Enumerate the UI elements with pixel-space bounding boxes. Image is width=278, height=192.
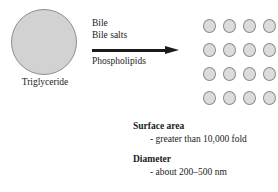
diameter-heading: Diameter bbox=[133, 153, 278, 166]
micelle-cell bbox=[219, 62, 239, 86]
micelle-circle bbox=[263, 19, 276, 33]
micelle-cell bbox=[219, 86, 239, 110]
micelle-cell bbox=[199, 86, 219, 110]
micelle-cell bbox=[259, 86, 278, 110]
micelle-circle bbox=[243, 91, 256, 105]
micelle-cell bbox=[239, 62, 259, 86]
micelle-cell bbox=[239, 14, 259, 38]
caption-block: Surface area - greater than 10,000 fold … bbox=[133, 120, 278, 179]
surface-area-detail: - greater than 10,000 fold bbox=[133, 133, 278, 146]
micelle-circle bbox=[263, 67, 276, 81]
micelle-circle bbox=[223, 91, 236, 105]
micelle-circle bbox=[263, 91, 276, 105]
reagent-bile-label: Bile bbox=[92, 17, 184, 29]
micelle-circle bbox=[223, 19, 236, 33]
micelle-circle bbox=[223, 43, 236, 57]
micelle-circle bbox=[243, 67, 256, 81]
micelle-cell bbox=[219, 14, 239, 38]
reagent-bile-salts-label: Bile salts bbox=[92, 29, 184, 41]
micelle-cell bbox=[199, 62, 219, 86]
diameter-detail: - about 200–500 nm bbox=[133, 166, 278, 179]
reagent-phospholipids-label: Phospholipids bbox=[92, 55, 146, 67]
micelle-circle bbox=[203, 19, 216, 33]
micelle-circle bbox=[203, 43, 216, 57]
micelle-cell bbox=[259, 38, 278, 62]
micelle-cell bbox=[239, 38, 259, 62]
micelle-cell bbox=[239, 86, 259, 110]
reagent-labels-above: Bile Bile salts bbox=[92, 17, 184, 41]
micelle-cell bbox=[199, 14, 219, 38]
micelle-circle bbox=[243, 43, 256, 57]
triglyceride-label: Triglyceride bbox=[0, 77, 90, 88]
micelle-circle bbox=[243, 19, 256, 33]
micelle-circle bbox=[203, 91, 216, 105]
micelle-cell bbox=[259, 62, 278, 86]
surface-area-heading: Surface area bbox=[133, 120, 278, 133]
triglyceride-droplet bbox=[11, 9, 77, 75]
micelle-circle bbox=[203, 67, 216, 81]
arrow-shaft bbox=[92, 49, 168, 52]
micelle-cell bbox=[259, 14, 278, 38]
arrow-head bbox=[165, 46, 179, 54]
micelle-circle bbox=[263, 43, 276, 57]
caption-spacer bbox=[133, 146, 278, 153]
micelle-grid bbox=[199, 14, 278, 110]
emulsification-diagram: Triglyceride Bile Bile salts Phospholipi… bbox=[0, 0, 278, 192]
micelle-circle bbox=[223, 67, 236, 81]
micelle-cell bbox=[199, 38, 219, 62]
micelle-cell bbox=[219, 38, 239, 62]
emulsification-arrow-icon bbox=[92, 46, 180, 55]
